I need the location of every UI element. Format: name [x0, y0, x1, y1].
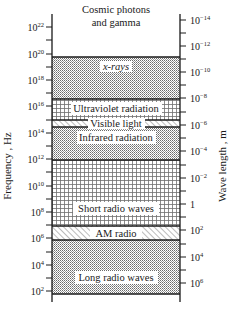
right-tick-label: 10−4 — [190, 145, 208, 157]
left-tick-label: 102 — [31, 285, 44, 297]
right-tick-label: 1 — [190, 199, 195, 210]
right-tick-label: 104 — [190, 251, 204, 263]
right-axis-labels: 10−14 10−12 10−10 10−8 10−6 10−4 10−2 1 … — [190, 14, 211, 289]
left-tick-label: 1014 — [28, 127, 45, 139]
right-tick-label: 10−6 — [190, 119, 208, 131]
left-tick-label: 1018 — [28, 74, 45, 86]
left-tick-label: 1012 — [28, 153, 45, 165]
right-tick-label: 10−12 — [190, 40, 210, 52]
left-tick-label: 1016 — [28, 100, 45, 112]
left-tick-label: 106 — [31, 232, 45, 244]
band-label-long-radio: Long radio waves — [78, 272, 153, 283]
bands — [52, 57, 180, 294]
right-tick-label: 102 — [190, 224, 203, 236]
left-tick-label: 1010 — [28, 180, 45, 192]
right-tick-label: 10−10 — [190, 66, 210, 78]
left-tick-label: 1020 — [28, 48, 45, 60]
band-label-am-radio: AM radio — [95, 228, 136, 239]
band-label-infrared: Infrared radiation — [79, 132, 154, 143]
left-tick-label: 104 — [31, 259, 45, 271]
right-tick-label: 10−2 — [190, 172, 207, 184]
band-label-cosmic-2: and gamma — [92, 17, 141, 28]
em-spectrum-diagram: 1022 1020 1018 1016 1014 1012 1010 108 1… — [0, 0, 233, 323]
right-axis-title: Wave length , m — [216, 130, 228, 202]
left-tick-label: 108 — [31, 206, 44, 218]
left-axis-labels: 1022 1020 1018 1016 1014 1012 1010 108 1… — [28, 21, 45, 297]
right-tick-label: 10−14 — [190, 14, 211, 26]
diagram-canvas: 1022 1020 1018 1016 1014 1012 1010 108 1… — [0, 0, 233, 323]
band-label-x-rays: x-rays — [102, 61, 129, 72]
band-short-radio — [52, 160, 180, 226]
left-axis-title: Frequency , Hz — [1, 132, 13, 200]
band-label-cosmic-1: Cosmic photons — [82, 4, 150, 15]
band-label-ultraviolet: Ultraviolet radiation — [73, 103, 159, 114]
left-axis-ticks — [46, 27, 52, 291]
band-label-short-radio: Short radio waves — [78, 203, 154, 214]
right-tick-label: 10−8 — [190, 92, 207, 104]
band-long-radio — [52, 240, 180, 294]
left-tick-label: 1022 — [28, 21, 45, 33]
right-tick-label: 106 — [190, 277, 204, 289]
band-label-visible: Visible light — [90, 118, 142, 129]
right-axis-ticks — [180, 20, 186, 283]
